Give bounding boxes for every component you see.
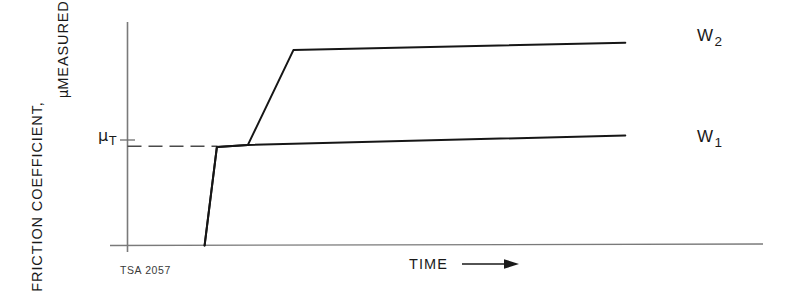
chart-plot-area bbox=[0, 0, 795, 292]
series-label-w2-symbol: W bbox=[697, 26, 714, 45]
x-axis-title: TIME bbox=[409, 256, 448, 272]
series-label-w1-subscript: 1 bbox=[715, 135, 723, 150]
mu-t-subscript: T bbox=[109, 133, 117, 148]
series-label-w2: W2 bbox=[697, 27, 721, 44]
x-axis-line bbox=[110, 244, 763, 246]
right-arrow-icon bbox=[462, 256, 520, 272]
y-tick-label-mu-t: μT bbox=[98, 128, 117, 144]
series-label-w1-symbol: W bbox=[697, 127, 714, 146]
curve-w1 bbox=[205, 136, 626, 246]
series-label-w1: W1 bbox=[697, 128, 721, 145]
figure-number: TSA 2057 bbox=[120, 264, 171, 276]
figure-container: FRICTION COEFFICIENT, μMEASURED μT W2 W1… bbox=[0, 0, 795, 292]
series-label-w2-subscript: 2 bbox=[715, 34, 723, 49]
mu-symbol-icon: μ bbox=[98, 126, 108, 145]
